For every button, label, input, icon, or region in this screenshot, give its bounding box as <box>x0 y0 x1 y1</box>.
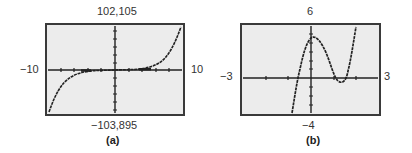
xmin-label-b: −3 <box>220 70 233 82</box>
ymin-label-b: −4 <box>302 119 315 131</box>
xmin-label-a: −10 <box>20 63 39 75</box>
xmax-label-b: 3 <box>384 70 390 82</box>
ymax-label-a: 102,105 <box>97 5 137 17</box>
plot-b <box>242 25 379 114</box>
xmax-label-a: 10 <box>191 63 203 75</box>
plot-a <box>47 25 183 114</box>
ymax-label-b: 6 <box>307 5 313 17</box>
curve-b <box>292 27 356 113</box>
calculator-screen-a <box>45 23 185 116</box>
panel-a: 102,105 −10 10 −103,895 (a) <box>0 0 206 153</box>
panel-b: 6 −3 3 −4 (b) <box>206 0 412 153</box>
calculator-screen-b <box>240 23 381 116</box>
ymin-label-a: −103,895 <box>91 119 137 131</box>
caption-b: (b) <box>306 134 320 146</box>
caption-a: (a) <box>106 134 119 146</box>
